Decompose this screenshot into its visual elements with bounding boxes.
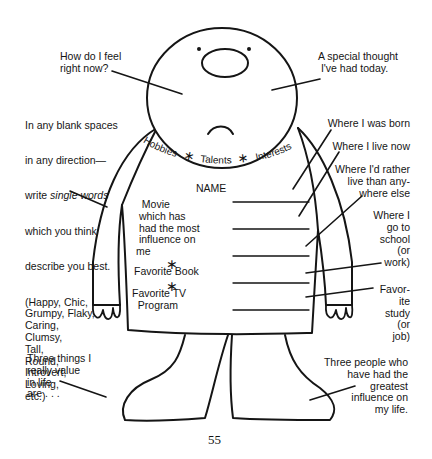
worksheet-page: Hobbies ∗ Talents ∗ Interests How do I f… bbox=[0, 0, 432, 459]
name-label: NAME bbox=[196, 183, 226, 195]
right-hand bbox=[326, 305, 352, 319]
prompt-favorite-study: Favor- ite study (or job) bbox=[380, 284, 410, 343]
prompt-favorite-book: Favorite Book bbox=[134, 266, 199, 278]
prompt-school-work: Where I go to school (or work) bbox=[373, 210, 410, 269]
instructions-line-4: which you think bbox=[25, 226, 118, 238]
prompt-where-live: Where I live now bbox=[332, 141, 410, 153]
prompt-special-thought: A special thought I've had today. bbox=[318, 51, 398, 75]
instructions-line-2: in any direction— bbox=[25, 155, 118, 167]
right-foot bbox=[231, 335, 335, 420]
right-eye bbox=[247, 47, 251, 51]
instructions-line-5: describe you best. bbox=[25, 261, 118, 273]
prompt-rather-live: Where I'd rather live than any- where el… bbox=[335, 164, 410, 199]
right-sleeve-seam bbox=[298, 128, 318, 230]
left-eye bbox=[197, 47, 201, 51]
single-words-emphasis: single words bbox=[50, 189, 108, 201]
instructions-line-3: write single words bbox=[25, 190, 118, 202]
page-number: 55 bbox=[208, 432, 221, 448]
left-foot bbox=[123, 335, 228, 421]
prompt-three-people: Three people who have had the greatest i… bbox=[324, 357, 408, 416]
shirt-blank-lines bbox=[233, 202, 309, 310]
instructions-line-1: In any blank spaces bbox=[25, 120, 118, 132]
prompt-how-do-i-feel: How do I feel right now? bbox=[60, 51, 121, 75]
prompt-movie: Movie which has had the most influence o… bbox=[136, 199, 200, 258]
prompt-where-born: Where I was born bbox=[328, 118, 410, 130]
prompt-three-things: Three things I really value in life are … bbox=[27, 353, 91, 400]
prompt-favorite-tv: Favorite TV Program bbox=[132, 288, 186, 312]
